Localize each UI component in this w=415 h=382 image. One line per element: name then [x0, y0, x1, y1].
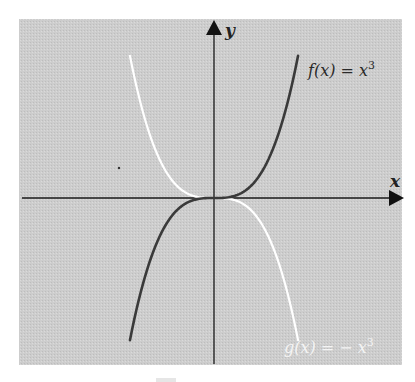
label-f-exp: 3 [368, 59, 375, 72]
label-g-exp: 3 [367, 336, 374, 349]
label-f: f(x) = x3 [307, 59, 375, 80]
caption-fragment [156, 378, 176, 382]
label-f-text: f(x) = x [307, 61, 368, 80]
x-axis-label: x [389, 171, 401, 191]
print-speck [118, 167, 120, 169]
label-g-text: g(x) = − x [284, 338, 367, 357]
chart: y x f(x) = x3 g(x) = − x3 [0, 0, 415, 382]
y-axis-label: y [224, 20, 236, 40]
label-g: g(x) = − x3 [284, 336, 374, 357]
